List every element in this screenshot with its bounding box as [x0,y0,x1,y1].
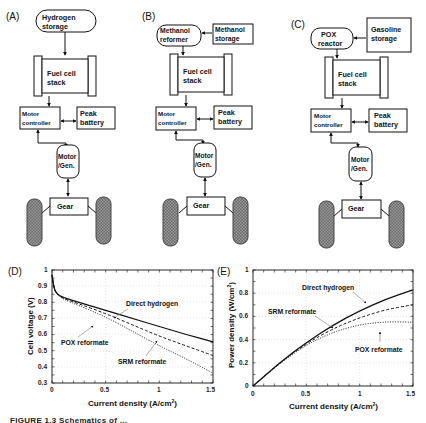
svg-text:1.5: 1.5 [206,386,215,393]
panel-b-diagram: (B) Methanol reformer Methanol storage F… [142,11,253,246]
wheel-right [96,197,111,244]
stack-endplate-right [88,56,96,96]
svg-text:Motor: Motor [351,156,370,163]
svg-text:stack: stack [338,79,356,88]
panel-label-b: (B) [142,11,155,22]
svg-text:controller: controller [314,121,343,128]
svg-text:SRM reformate: SRM reformate [118,358,167,365]
figure-caption: FIGURE 1.3 Schematics of ... [10,416,127,423]
svg-text:0.2: 0.2 [239,359,248,366]
svg-text:Motor: Motor [158,110,176,117]
hydrogen-storage-label: Hydrogen [42,13,76,22]
wheel-left [163,199,178,246]
svg-text:0.6: 0.6 [239,312,248,319]
svg-text:0.5: 0.5 [100,386,109,393]
panel-label-c: (C) [291,19,305,30]
svg-text:/Gen.: /Gen. [195,161,212,168]
svg-text:0.4: 0.4 [38,363,47,370]
panel-label-d: (D) [8,266,22,277]
series-direct-hydrogen [52,275,213,342]
svg-text:Motor: Motor [58,153,77,160]
svg-text:Direct hydrogen: Direct hydrogen [126,300,178,308]
fuel-cell-stack-label: Fuel cell [47,69,76,78]
svg-text:0.5: 0.5 [38,347,47,354]
svg-text:Gear: Gear [348,204,365,213]
svg-text:Peak: Peak [80,109,97,118]
svg-text:0.8: 0.8 [239,289,248,296]
svg-text:1: 1 [358,390,362,397]
svg-text:controller: controller [158,119,187,126]
svg-text:1: 1 [157,386,161,393]
svg-text:Peak: Peak [374,111,391,120]
wheel-right [233,197,248,244]
svg-text:0.8: 0.8 [38,298,47,305]
svg-text:Motor: Motor [314,112,332,119]
svg-text:Gear: Gear [193,201,210,210]
svg-text:Methanol: Methanol [215,26,245,33]
svg-text:reformer: reformer [160,36,188,43]
y-axis-label: Power density (W/cm2) [226,282,236,368]
wheel-left [319,201,334,248]
y-axis-label: Cell voltage (V) [26,297,35,355]
wheel-left [27,199,42,246]
stack-endplate-left [34,56,42,96]
svg-text:Motor: Motor [22,110,40,117]
svg-text:0.6: 0.6 [38,330,47,337]
svg-text:Methanol: Methanol [160,27,190,34]
svg-text:Direct hydrogen: Direct hydrogen [302,284,354,292]
svg-text:battery: battery [218,117,242,126]
wheel-right [389,201,404,248]
svg-text:Gear: Gear [57,202,74,211]
svg-text:/Gen.: /Gen. [58,162,75,169]
svg-text:Motor: Motor [195,152,214,159]
series-direct-hydrogen [253,290,413,386]
svg-text:Peak: Peak [218,108,235,117]
svg-text:Fuel cell: Fuel cell [183,67,212,76]
svg-text:0.9: 0.9 [38,282,47,289]
panel-label-a: (A) [6,11,19,22]
panel-label-e: (E) [217,266,230,277]
svg-text:controller: controller [22,119,51,126]
motor-generator-box [349,147,372,181]
svg-text:POX: POX [321,30,336,39]
motor-generator-box [194,143,216,177]
panel-c-diagram: (C) POX reactor Gasoline storage Fuel ce… [291,18,411,248]
svg-text:battery: battery [374,120,398,129]
svg-text:0.3: 0.3 [38,379,47,386]
svg-text:/Gen.: /Gen. [351,165,368,172]
svg-text:1.5: 1.5 [406,390,415,397]
svg-text:POX reformate: POX reformate [61,339,109,346]
chart-e: (E) 1 0.8 0.6 0.4 0.2 0 0 0.5 1 1.5 Curr… [217,266,415,411]
x-axis-label: Current density (A/cm2) [88,398,177,408]
svg-text:storage: storage [371,34,397,43]
fuel-cell-stack-label-2: stack [47,78,65,87]
svg-text:1: 1 [44,266,48,273]
svg-text:Fuel cell: Fuel cell [338,70,367,79]
svg-text:0: 0 [50,386,54,393]
series-pox-reformate [253,322,413,386]
chart-d: (D) 1 0.9 0.8 0.7 0.6 0.5 0.4 0.3 0 0.5 … [8,266,215,408]
svg-text:1: 1 [245,266,249,273]
svg-text:0.4: 0.4 [239,336,248,343]
svg-text:0.5: 0.5 [301,390,310,397]
svg-text:Gasoline: Gasoline [371,25,401,34]
svg-text:SRM reformate: SRM reformate [268,308,317,315]
svg-text:0: 0 [251,390,255,397]
svg-text:storage: storage [215,35,240,43]
svg-text:0.7: 0.7 [38,314,47,321]
svg-text:battery: battery [80,118,104,127]
x-axis-label: Current density (A/cm2) [289,401,378,411]
svg-text:reactor: reactor [318,39,343,48]
svg-text:POX reformate: POX reformate [355,346,403,353]
plot-frame [52,270,213,383]
hydrogen-storage-label-2: storage [42,22,68,31]
panel-a-diagram: (A) Hydrogen storage Fuel cell stack Mot… [6,10,115,246]
svg-text:0: 0 [245,382,249,389]
svg-text:stack: stack [183,76,201,85]
